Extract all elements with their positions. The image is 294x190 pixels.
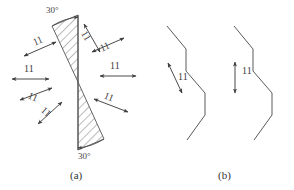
figure-container: 30°30°11111111111111111111 (a) (b) <box>0 0 294 190</box>
panel-caption-b: (b) <box>218 170 231 181</box>
staircase-right <box>234 26 272 140</box>
panel-b-geometry <box>167 26 272 140</box>
dimension-left-label: 11 <box>178 72 188 82</box>
figure-canvas <box>0 0 294 190</box>
panel-a-geometry <box>52 15 104 150</box>
upper-hatched-wedge <box>52 15 78 82</box>
panel-caption-a: (a) <box>70 170 82 181</box>
dimension-right-label: 11 <box>242 66 252 76</box>
staircase-left <box>167 26 205 140</box>
arrow-right-mid-label: 11 <box>110 61 120 71</box>
lower-hatched-wedge <box>78 82 104 150</box>
arrow-left-mid-upper-label: 11 <box>24 64 34 74</box>
angle-top-label: 30° <box>46 6 59 15</box>
angle-bottom-label: 30° <box>78 152 91 161</box>
